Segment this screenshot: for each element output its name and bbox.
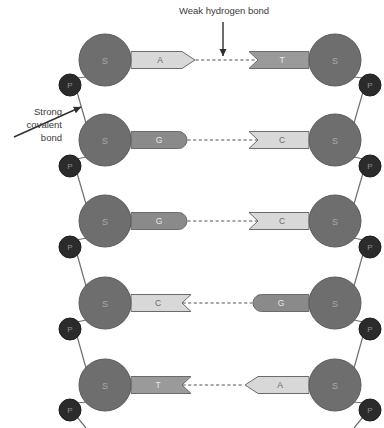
sugar-label: S bbox=[102, 299, 108, 309]
phosphate-label: P bbox=[367, 406, 372, 415]
weak-hydrogen-bond-label: Weak hydrogen bond bbox=[179, 5, 269, 16]
hydrogen-bond-layer bbox=[183, 60, 257, 385]
sugar-label: S bbox=[332, 381, 338, 391]
phosphate-label: P bbox=[67, 243, 72, 252]
base-label: A bbox=[157, 55, 163, 65]
base-label: G bbox=[278, 298, 285, 308]
strong-covalent-bond-label-line: Strong bbox=[34, 106, 62, 117]
covalent-bond-line bbox=[77, 254, 86, 286]
weak-hydrogen-bond-annotation: Weak hydrogen bond bbox=[179, 5, 269, 56]
strong-covalent-bond-label-line: bond bbox=[41, 132, 62, 143]
sugar-label: S bbox=[102, 381, 108, 391]
dna-structure-svg: ATGCGCCGTA SSPPSSPPSSPPSSPPSSPP Weak hyd… bbox=[0, 0, 384, 428]
sugar-label: S bbox=[102, 217, 108, 227]
nitrogen-base-layer: ATGCGCCGTA bbox=[131, 52, 309, 394]
nitrogen-base-t bbox=[131, 377, 191, 394]
sugar-label: S bbox=[102, 136, 108, 146]
base-label: C bbox=[279, 216, 285, 226]
base-label: T bbox=[279, 55, 284, 65]
base-label: T bbox=[155, 380, 160, 390]
phosphate-label: P bbox=[67, 325, 72, 334]
dna-diagram: ATGCGCCGTA SSPPSSPPSSPPSSPPSSPP Weak hyd… bbox=[0, 0, 384, 428]
nitrogen-base-a bbox=[131, 52, 195, 69]
sugar-label: S bbox=[332, 299, 338, 309]
phosphate-label: P bbox=[367, 81, 372, 90]
strong-covalent-bond-label: Strongcovalentbond bbox=[27, 106, 63, 143]
base-label: G bbox=[156, 135, 163, 145]
base-label: A bbox=[277, 380, 283, 390]
phosphate-label: P bbox=[367, 162, 372, 171]
covalent-bond-line bbox=[354, 417, 363, 428]
covalent-bond-line bbox=[354, 92, 363, 123]
base-label: G bbox=[156, 216, 163, 226]
phosphate-label: P bbox=[67, 81, 72, 90]
phosphate-label: P bbox=[67, 406, 72, 415]
sugar-label: S bbox=[102, 56, 108, 66]
phosphate-label: P bbox=[367, 325, 372, 334]
phosphate-label: P bbox=[67, 162, 72, 171]
base-label: C bbox=[155, 298, 161, 308]
covalent-bond-line bbox=[77, 336, 86, 368]
sugar-phosphate-unit-layer: SSPPSSPPSSPPSSPPSSPP bbox=[59, 34, 381, 421]
sugar-label: S bbox=[332, 136, 338, 146]
sugar-label: S bbox=[332, 217, 338, 227]
covalent-bond-line bbox=[77, 417, 86, 428]
phosphate-label: P bbox=[367, 243, 372, 252]
sugar-label: S bbox=[332, 56, 338, 66]
base-label: C bbox=[279, 135, 285, 145]
covalent-bond-line bbox=[354, 173, 363, 204]
covalent-bond-line bbox=[354, 336, 363, 368]
covalent-bond-line bbox=[354, 254, 363, 286]
strong-covalent-bond-label-line: covalent bbox=[27, 119, 63, 130]
covalent-bond-line bbox=[77, 173, 86, 204]
strong-covalent-bond-annotation: Strongcovalentbond bbox=[14, 106, 81, 143]
